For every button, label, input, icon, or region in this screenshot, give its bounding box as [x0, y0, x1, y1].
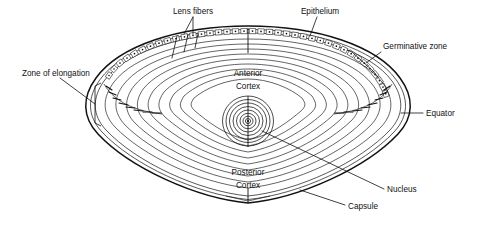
label-anterior-cortex-line1: Anterior [234, 69, 263, 78]
epithelial-cell [232, 29, 239, 34]
epithelial-cell [249, 28, 255, 33]
epithelial-cell [266, 29, 273, 35]
epithelial-cell [224, 29, 231, 35]
leader-capsule [300, 190, 345, 205]
epithelial-cell [258, 29, 265, 34]
epithelial-cell [291, 32, 298, 38]
epithelial-cell [308, 35, 315, 42]
label-capsule: Capsule [348, 202, 378, 211]
label-zone-of-elongation: Zone of elongation [22, 69, 90, 78]
epithelial-cell [300, 33, 307, 39]
epithelial-cell [275, 30, 282, 36]
epithelial-cell [207, 30, 214, 36]
label-nucleus: Nucleus [387, 185, 417, 194]
epithelial-cell [283, 31, 290, 37]
epithelial-cell [215, 29, 222, 35]
label-anterior-cortex-line2: Cortex [236, 82, 260, 91]
nucleus-center-dot [247, 120, 249, 122]
lens-cross-section-figure: Lens fibers Epithelium Germinative zone … [0, 0, 478, 227]
lens-diagram-svg: Lens fibers Epithelium Germinative zone … [0, 0, 478, 227]
label-posterior-cortex-line1: Posterior [232, 168, 265, 177]
label-lens-fibers: Lens fibers [173, 7, 213, 16]
label-posterior-cortex-line2: Cortex [236, 181, 260, 190]
label-germinative-zone: Germinative zone [383, 42, 448, 51]
label-equator: Equator [426, 109, 455, 118]
epithelial-cell [241, 28, 247, 33]
label-epithelium: Epithelium [301, 7, 339, 16]
epithelial-cell [198, 31, 205, 37]
